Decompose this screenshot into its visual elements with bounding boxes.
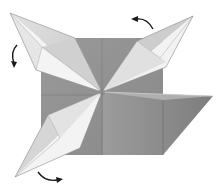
- origami-diagram: Origami folding step: swing three points…: [0, 0, 222, 191]
- diagram-canvas: [0, 0, 222, 191]
- right-folded-flap: [103, 92, 213, 155]
- arrow-left-icon: [11, 45, 17, 68]
- center-point: [99, 89, 105, 95]
- arrow-bottom-icon: [38, 172, 63, 183]
- arrow-top-icon: [131, 16, 153, 29]
